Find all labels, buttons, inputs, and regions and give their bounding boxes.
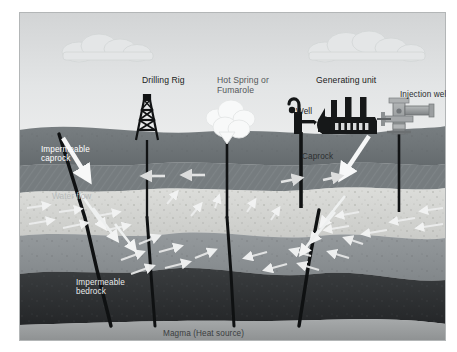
diagram-page: Drilling Rig Hot Spring or Fumarole Gene…	[0, 0, 457, 352]
label-drilling-rig: Drilling Rig	[142, 76, 185, 86]
label-impermeable-bedrock: Impermeable bedrock	[76, 278, 125, 296]
label-caprock: Caprock	[302, 152, 333, 161]
label-magma-heat-source: Magma (Heat source)	[163, 329, 244, 338]
label-water-flow: Water flow	[52, 192, 91, 201]
label-impermeable-caprock: Impermeable caprock	[41, 145, 90, 163]
label-generating-unit: Generating unit	[316, 76, 376, 86]
label-hot-spring-or-fumarole: Hot Spring or Fumarole	[217, 76, 269, 95]
geothermal-diagram: Drilling Rig Hot Spring or Fumarole Gene…	[19, 12, 446, 341]
label-injection-well: Injection well	[400, 90, 446, 99]
label-well: Well	[296, 107, 312, 116]
